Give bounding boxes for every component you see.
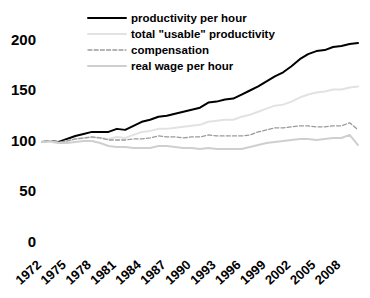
legend-label: real wage per hour [131, 60, 234, 72]
legend-label: compensation [131, 44, 209, 56]
legend-label: productivity per hour [131, 12, 247, 24]
productivity-wage-line-chart: 050100150200 197219751978198119841987199… [0, 0, 370, 298]
y-tick-label: 50 [19, 182, 36, 199]
y-tick-label: 100 [11, 132, 36, 149]
y-tick-label: 200 [11, 31, 36, 48]
chart-plot-area: 050100150200 197219751978198119841987199… [0, 0, 370, 298]
y-tick-label: 150 [11, 81, 36, 98]
y-tick-label: 0 [28, 233, 36, 250]
legend-label: total "usable" productivity [131, 28, 275, 40]
